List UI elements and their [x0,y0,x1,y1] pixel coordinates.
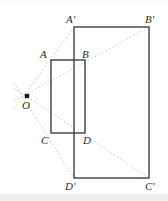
label-A-prime: A' [66,14,75,25]
label-B-prime: B' [145,14,154,25]
inner-rectangle-abcd [51,60,85,133]
label-A: A [40,49,47,60]
label-D: D [83,135,91,146]
dilation-figure: O A B C D A' B' C' D' [0,0,168,201]
ray-O-to-B-prime [14,27,149,101]
center-point-o-dot [25,94,29,98]
ray-O-to-D-prime [14,83,74,178]
label-D-prime: D' [65,181,75,192]
bottom-edge-band [0,194,168,201]
label-B: B [82,49,89,60]
label-O: O [22,100,30,111]
label-C-prime: C' [145,181,155,192]
label-C: C [41,135,48,146]
